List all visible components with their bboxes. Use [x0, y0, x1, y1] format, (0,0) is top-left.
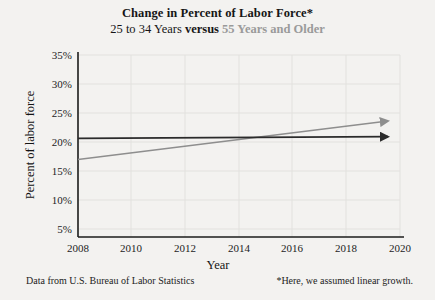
title-segment-older: 55 Years and Older	[219, 22, 325, 36]
chart-title-line1: Change in Percent of Labor Force*	[0, 6, 435, 20]
x-tick-2018: 2018	[335, 242, 358, 254]
x-tick-2016: 2016	[281, 242, 304, 254]
footer-source: Data from U.S. Bureau of Labor Statistic…	[26, 275, 194, 286]
grid-lines	[78, 55, 400, 237]
title-segment-versus: versus	[185, 22, 219, 36]
chart-page: Change in Percent of Labor Force* 25 to …	[0, 0, 435, 300]
title-segment-young: 25 to 34 Years	[110, 22, 185, 36]
x-tick-2008: 2008	[67, 242, 90, 254]
chart-title-line2: 25 to 34 Years versus 55 Years and Older	[0, 22, 435, 36]
chart-title-block: Change in Percent of Labor Force* 25 to …	[0, 6, 435, 37]
x-tick-2014: 2014	[228, 242, 251, 254]
y-axis-title: Percent of labor force	[23, 90, 37, 199]
x-tick-2020: 2020	[389, 242, 412, 254]
x-axis-tick-labels: 2008 2010 2012 2014 2016 2018 2020	[67, 242, 412, 254]
y-tick-10: 10%	[52, 194, 72, 206]
y-tick-25: 25%	[52, 107, 72, 119]
x-tick-2012: 2012	[174, 242, 196, 254]
y-axis-tick-labels: 35% 30% 25% 20% 15% 10% 5%	[52, 49, 72, 235]
chart-canvas: 35% 30% 25% 20% 15% 10% 5% 2008 2010 201…	[0, 38, 435, 273]
series-line-older	[78, 121, 388, 160]
y-tick-30: 30%	[52, 78, 72, 90]
series-line-young	[78, 137, 388, 139]
x-axis-title: Year	[206, 258, 230, 272]
y-tick-15: 15%	[52, 165, 72, 177]
y-tick-20: 20%	[52, 136, 72, 148]
y-tick-5: 5%	[57, 223, 72, 235]
footer-footnote: *Here, we assumed linear growth.	[276, 275, 413, 286]
axis-lines	[78, 52, 404, 237]
x-tick-2010: 2010	[120, 242, 143, 254]
y-tick-35: 35%	[52, 49, 72, 61]
